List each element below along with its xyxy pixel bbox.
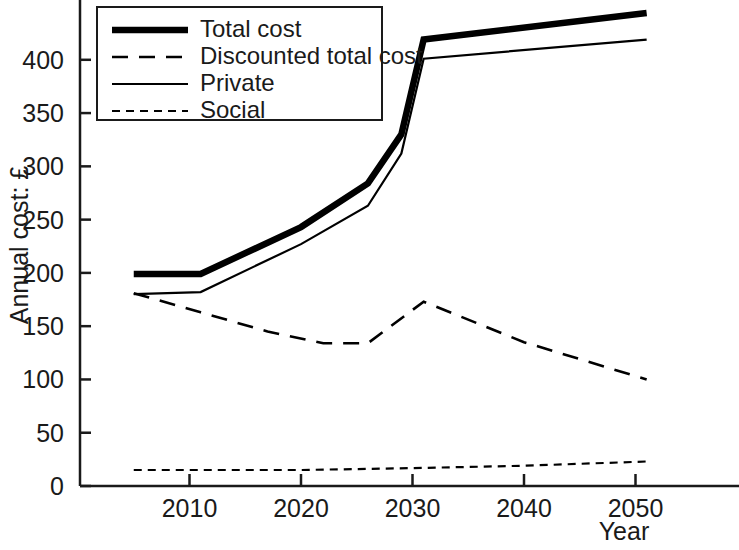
y-tick-label: 400: [22, 46, 64, 74]
y-tick-label: 100: [22, 365, 64, 393]
legend-label-social: Social: [200, 96, 265, 123]
x-axis-tick-labels: 20102020203020402050: [162, 494, 664, 522]
line-chart: 050100150200250300350400 201020202030204…: [0, 0, 739, 550]
y-axis-ticks: [80, 60, 91, 486]
x-tick-label: 2020: [273, 494, 329, 522]
chart-legend: Total costDiscounted total costPrivateSo…: [97, 7, 423, 123]
y-axis-title: Annual cost: £: [5, 166, 33, 325]
x-tick-label: 2030: [385, 494, 441, 522]
legend-label-total-cost: Total cost: [200, 15, 302, 42]
y-tick-label: 0: [50, 472, 64, 500]
x-axis-ticks: [190, 474, 636, 486]
series-line-discounted-total-cost: [134, 293, 647, 379]
series-line-social: [134, 461, 647, 470]
chart-container: 050100150200250300350400 201020202030204…: [0, 0, 739, 550]
legend-label-private: Private: [200, 69, 275, 96]
x-axis-title: Year: [599, 517, 650, 545]
x-tick-label: 2010: [162, 494, 218, 522]
legend-label-discounted-total-cost: Discounted total cost: [200, 42, 423, 69]
x-tick-label: 2040: [496, 494, 552, 522]
y-tick-label: 350: [22, 99, 64, 127]
y-tick-label: 50: [36, 419, 64, 447]
